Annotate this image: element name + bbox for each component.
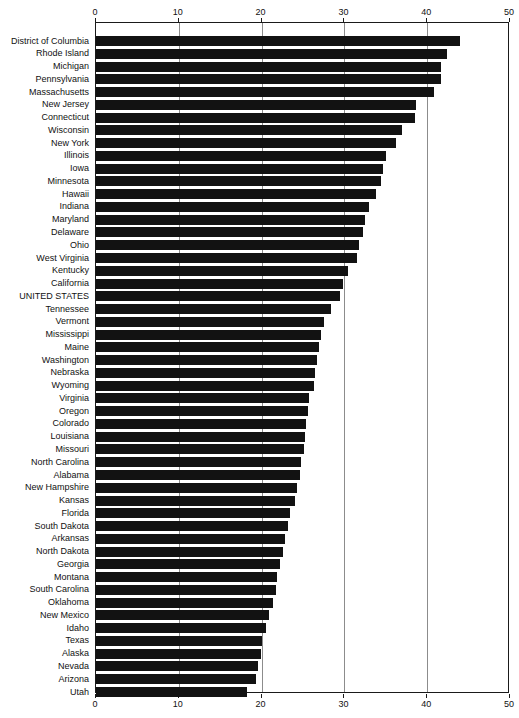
bar-row[interactable]: Kentucky (0, 264, 519, 277)
bar-row[interactable]: West Virginia (0, 252, 519, 265)
bar-indiana[interactable] (96, 202, 369, 212)
bar-row[interactable]: District of Columbia (0, 35, 519, 48)
bar-united-states[interactable] (96, 291, 340, 301)
bar-row[interactable]: Louisiana (0, 430, 519, 443)
bar-row[interactable]: Idaho (0, 622, 519, 635)
bar-row[interactable]: Vermont (0, 315, 519, 328)
bar-louisiana[interactable] (96, 432, 305, 442)
bar-row[interactable]: New Hampshire (0, 481, 519, 494)
bar-row[interactable]: Arkansas (0, 532, 519, 545)
bar-oregon[interactable] (96, 406, 308, 416)
bar-texas[interactable] (96, 636, 262, 646)
bar-alaska[interactable] (96, 649, 261, 659)
bar-illinois[interactable] (96, 151, 386, 161)
bar-montana[interactable] (96, 572, 277, 582)
bar-row[interactable]: Massachusetts (0, 86, 519, 99)
bar-colorado[interactable] (96, 419, 306, 429)
bar-row[interactable]: Kansas (0, 494, 519, 507)
bar-vermont[interactable] (96, 317, 324, 327)
bar-virginia[interactable] (96, 393, 309, 403)
bar-west-virginia[interactable] (96, 253, 357, 263)
bar-row[interactable]: New Mexico (0, 609, 519, 622)
bar-row[interactable]: Georgia (0, 558, 519, 571)
bar-missouri[interactable] (96, 444, 304, 454)
bar-mississippi[interactable] (96, 330, 321, 340)
bar-row[interactable]: Alabama (0, 469, 519, 482)
bar-maine[interactable] (96, 342, 319, 352)
bar-row[interactable]: Hawaii (0, 188, 519, 201)
bar-new-jersey[interactable] (96, 100, 416, 110)
bar-rhode-island[interactable] (96, 49, 447, 59)
bar-row[interactable]: Utah (0, 686, 519, 699)
bar-new-mexico[interactable] (96, 610, 269, 620)
bar-row[interactable]: Colorado (0, 417, 519, 430)
bar-arkansas[interactable] (96, 534, 285, 544)
bar-minnesota[interactable] (96, 176, 381, 186)
bar-row[interactable]: North Dakota (0, 545, 519, 558)
bar-row[interactable]: Delaware (0, 226, 519, 239)
bar-idaho[interactable] (96, 623, 266, 633)
bar-row[interactable]: Alaska (0, 647, 519, 660)
bar-row[interactable]: UNITED STATES (0, 290, 519, 303)
bar-nevada[interactable] (96, 661, 258, 671)
bar-row[interactable]: Maryland (0, 213, 519, 226)
bar-row[interactable]: Wisconsin (0, 124, 519, 137)
bar-row[interactable]: New Jersey (0, 98, 519, 111)
bar-row[interactable]: Illinois (0, 149, 519, 162)
bar-row[interactable]: Mississippi (0, 328, 519, 341)
bar-row[interactable]: Virginia (0, 392, 519, 405)
bar-kentucky[interactable] (96, 266, 348, 276)
bar-south-carolina[interactable] (96, 585, 276, 595)
bar-row[interactable]: Wyoming (0, 379, 519, 392)
bar-arizona[interactable] (96, 674, 256, 684)
bar-district-of-columbia[interactable] (96, 36, 460, 46)
bar-row[interactable]: Tennessee (0, 303, 519, 316)
bar-south-dakota[interactable] (96, 521, 288, 531)
bar-pennsylvania[interactable] (96, 74, 441, 84)
bar-iowa[interactable] (96, 164, 383, 174)
bar-new-hampshire[interactable] (96, 483, 297, 493)
bar-nebraska[interactable] (96, 368, 315, 378)
bar-row[interactable]: Indiana (0, 200, 519, 213)
bar-wisconsin[interactable] (96, 125, 402, 135)
bar-row[interactable]: Rhode Island (0, 47, 519, 60)
bar-hawaii[interactable] (96, 189, 376, 199)
bar-row[interactable]: Arizona (0, 673, 519, 686)
bar-connecticut[interactable] (96, 113, 415, 123)
bar-wyoming[interactable] (96, 381, 314, 391)
bar-delaware[interactable] (96, 227, 363, 237)
bar-row[interactable]: Nevada (0, 660, 519, 673)
bar-row[interactable]: Montana (0, 571, 519, 584)
bar-maryland[interactable] (96, 215, 365, 225)
bar-row[interactable]: Oregon (0, 405, 519, 418)
bar-row[interactable]: Michigan (0, 60, 519, 73)
bar-row[interactable]: California (0, 277, 519, 290)
bar-row[interactable]: Washington (0, 354, 519, 367)
bar-row[interactable]: Ohio (0, 239, 519, 252)
bar-georgia[interactable] (96, 559, 280, 569)
bar-utah[interactable] (96, 687, 247, 697)
bar-north-dakota[interactable] (96, 547, 283, 557)
bar-michigan[interactable] (96, 62, 441, 72)
bar-row[interactable]: Florida (0, 507, 519, 520)
bar-massachusetts[interactable] (96, 87, 434, 97)
bar-florida[interactable] (96, 508, 290, 518)
bar-row[interactable]: New York (0, 137, 519, 150)
bar-row[interactable]: Minnesota (0, 175, 519, 188)
bar-row[interactable]: South Dakota (0, 520, 519, 533)
bar-row[interactable]: Iowa (0, 162, 519, 175)
bar-row[interactable]: North Carolina (0, 456, 519, 469)
bar-new-york[interactable] (96, 138, 396, 148)
bar-washington[interactable] (96, 355, 317, 365)
bar-north-carolina[interactable] (96, 457, 301, 467)
bar-california[interactable] (96, 279, 343, 289)
bar-tennessee[interactable] (96, 304, 331, 314)
bar-row[interactable]: Maine (0, 341, 519, 354)
bar-row[interactable]: Texas (0, 634, 519, 647)
bar-row[interactable]: South Carolina (0, 583, 519, 596)
bar-kansas[interactable] (96, 496, 295, 506)
bar-oklahoma[interactable] (96, 598, 273, 608)
bar-row[interactable]: Connecticut (0, 111, 519, 124)
bar-row[interactable]: Pennsylvania (0, 73, 519, 86)
bar-row[interactable]: Nebraska (0, 366, 519, 379)
